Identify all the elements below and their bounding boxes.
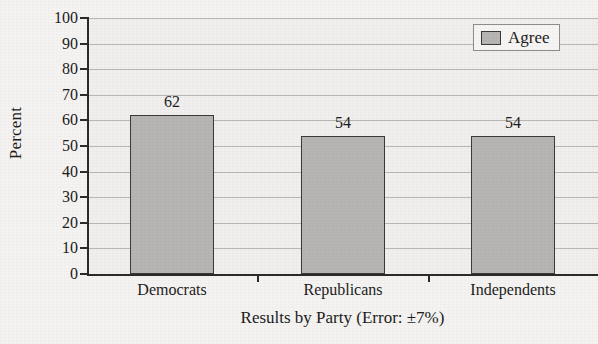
y-axis-tick-mark (80, 171, 89, 173)
y-axis-tick-mark (80, 196, 89, 198)
y-axis-tick-mark (80, 119, 89, 121)
bar (130, 115, 214, 274)
x-axis-title: Results by Party (Error: ±7%) (87, 308, 598, 328)
y-axis-tick-label: 100 (40, 10, 78, 26)
y-axis-tick-mark (80, 145, 89, 147)
gridline (87, 18, 598, 19)
legend: Agree (473, 24, 560, 51)
bar-value-label: 62 (142, 94, 202, 110)
y-axis-tick-label: 0 (40, 266, 78, 282)
legend-swatch-agree (481, 31, 501, 45)
y-axis-tick-mark (80, 94, 89, 96)
y-axis-tick-label: 30 (40, 189, 78, 205)
bar (471, 136, 555, 274)
y-axis-tick-label: 80 (40, 61, 78, 77)
x-axis-category-label: Independents (433, 281, 593, 299)
x-axis-line (87, 274, 598, 276)
y-axis-tick-mark (80, 273, 89, 275)
y-axis-tick-mark (80, 43, 89, 45)
y-axis-tick-mark (80, 247, 89, 249)
bar-chart: 1009080706050403020100 Percent 62Democra… (0, 0, 598, 344)
y-axis-tick-label: 90 (40, 36, 78, 52)
y-axis-tick-label: 70 (40, 87, 78, 103)
y-axis-title: Percent (6, 73, 26, 193)
y-axis-tick-label: 50 (40, 138, 78, 154)
y-axis-tick-mark (80, 68, 89, 70)
x-axis-category-label: Democrats (92, 281, 252, 299)
y-axis-tick-labels: 1009080706050403020100 (32, 0, 78, 344)
x-axis-tick-mark (257, 274, 259, 282)
bar-value-label: 54 (313, 115, 373, 131)
y-axis-tick-mark (80, 17, 89, 19)
y-axis-tick-label: 10 (40, 240, 78, 256)
y-axis-tick-label: 20 (40, 215, 78, 231)
y-axis-tick-label: 60 (40, 112, 78, 128)
bar (301, 136, 385, 274)
x-axis-category-label: Republicans (263, 281, 423, 299)
gridline (87, 69, 598, 70)
y-axis-tick-mark (80, 222, 89, 224)
y-axis-tick-label: 40 (40, 164, 78, 180)
legend-label-agree: Agree (508, 29, 550, 46)
x-axis-tick-mark (428, 274, 430, 282)
bar-value-label: 54 (483, 115, 543, 131)
